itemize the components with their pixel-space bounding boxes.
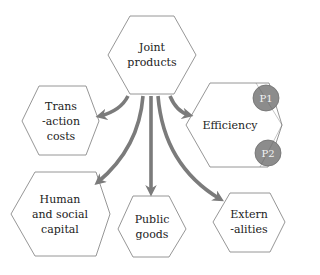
label-line: Efficiency	[202, 118, 257, 133]
node-label-joint-products: Joint products	[127, 40, 176, 70]
marker-p2-label: P2	[261, 148, 274, 159]
label-line: Joint	[127, 40, 176, 55]
label-line: -action	[42, 114, 80, 129]
node-label-externalities: Extern -alities	[230, 207, 268, 237]
label-line: capital	[32, 222, 88, 237]
node-label-efficiency: Efficiency	[202, 118, 257, 133]
arrow-to-transaction-costs	[100, 96, 128, 116]
label-line: Public	[135, 212, 170, 227]
label-line: costs	[42, 129, 80, 144]
arrow-to-human-social-capital	[98, 96, 143, 182]
node-label-transaction-costs: Trans -action costs	[42, 99, 80, 144]
label-line: goods	[135, 227, 170, 242]
label-line: products	[127, 55, 176, 70]
label-line: Human	[32, 192, 88, 207]
node-label-human-social-capital: Human and social capital	[32, 192, 88, 237]
node-label-public-goods: Public goods	[135, 212, 170, 242]
label-line: Trans	[42, 99, 80, 114]
label-line: -alities	[230, 222, 268, 237]
arrow-to-efficiency	[170, 96, 189, 115]
marker-p1-label: P1	[259, 93, 272, 104]
label-line: Extern	[230, 207, 268, 222]
label-line: and social	[32, 207, 88, 222]
